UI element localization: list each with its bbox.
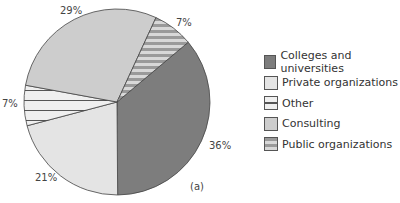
swatch-other-icon	[264, 96, 278, 110]
legend-item-consulting: Consulting	[264, 114, 400, 135]
chart-caption: (a)	[190, 181, 204, 192]
legend-item-other: Other	[264, 93, 400, 114]
legend: Colleges and universities Private organi…	[264, 52, 400, 155]
legend-item-colleges: Colleges and universities	[264, 52, 400, 73]
label-public-pct: 7%	[176, 17, 192, 28]
legend-label: Other	[282, 97, 313, 110]
legend-label: Colleges and universities	[280, 49, 400, 75]
legend-label: Consulting	[282, 117, 340, 130]
legend-label: Public organizations	[282, 138, 392, 151]
legend-item-private: Private organizations	[264, 73, 400, 94]
label-colleges-pct: 36%	[209, 140, 231, 151]
legend-item-public: Public organizations	[264, 134, 400, 155]
label-other-pct: 7%	[2, 98, 18, 109]
swatch-private-icon	[264, 76, 278, 90]
swatch-colleges-icon	[264, 55, 276, 69]
legend-label: Private organizations	[282, 76, 398, 89]
label-private-pct: 21%	[35, 172, 57, 183]
swatch-consulting-icon	[264, 117, 278, 131]
label-consulting-pct: 29%	[60, 5, 82, 16]
swatch-public-icon	[264, 137, 278, 151]
